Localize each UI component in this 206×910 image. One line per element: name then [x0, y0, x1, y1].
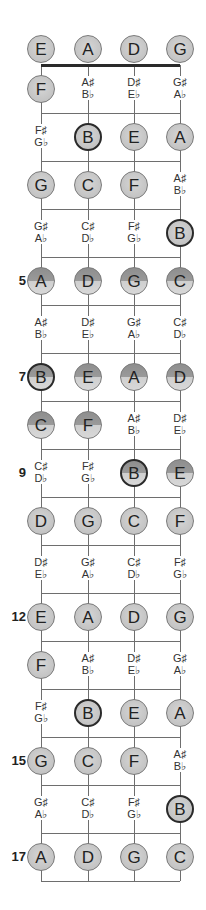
fret-line: [41, 497, 180, 498]
flat-name: D♭: [26, 472, 56, 484]
note-circle-d: D: [74, 267, 102, 295]
accidental-note-label: F♯G♭: [26, 700, 56, 724]
note-circle-b: B: [120, 459, 148, 487]
fret-line: [41, 833, 180, 834]
fret-line: [41, 689, 180, 690]
note-circle-f: F: [74, 411, 102, 439]
flat-name: A♭: [165, 664, 195, 676]
sharp-name: D♯: [165, 412, 195, 424]
sharp-name: D♯: [26, 556, 56, 568]
flat-name: G♭: [26, 712, 56, 724]
note-circle-g: G: [74, 507, 102, 535]
flat-name: E♭: [119, 88, 149, 100]
fret-number-marker: 15: [4, 753, 26, 768]
flat-name: D♭: [73, 232, 103, 244]
flat-name: B♭: [73, 664, 103, 676]
note-circle-g: G: [120, 267, 148, 295]
sharp-name: G♯: [26, 220, 56, 232]
note-circle-f: F: [120, 747, 148, 775]
note-circle-b: B: [74, 699, 102, 727]
note-circle-a: A: [166, 699, 194, 727]
flat-name: B♭: [73, 88, 103, 100]
note-circle-a: A: [166, 123, 194, 151]
flat-name: E♭: [73, 328, 103, 340]
flat-name: B♭: [26, 328, 56, 340]
accidental-note-label: F♯G♭: [26, 124, 56, 148]
accidental-note-label: C♯D♭: [73, 796, 103, 820]
note-circle-c: C: [166, 843, 194, 871]
accidental-note-label: D♯E♭: [73, 316, 103, 340]
flat-name: B♭: [165, 760, 195, 772]
fret-number-marker: 7: [4, 369, 26, 384]
accidental-note-label: A♯B♭: [73, 652, 103, 676]
accidental-note-label: G♯A♭: [119, 316, 149, 340]
sharp-name: F♯: [119, 220, 149, 232]
note-circle-c: C: [27, 411, 55, 439]
fret-number-marker: 17: [4, 849, 26, 864]
fret-number-marker: 12: [4, 609, 26, 624]
sharp-name: C♯: [119, 556, 149, 568]
note-circle-c: C: [166, 267, 194, 295]
flat-name: A♭: [26, 808, 56, 820]
fret-line: [41, 161, 180, 162]
fretboard-diagram: EADGFA♯B♭D♯E♭G♯A♭F♯G♭BEAGCFA♯B♭G♯A♭C♯D♭F…: [0, 0, 206, 910]
nut: [41, 64, 180, 67]
note-circle-f: F: [27, 651, 55, 679]
flat-name: A♭: [165, 88, 195, 100]
sharp-name: G♯: [73, 556, 103, 568]
accidental-note-label: F♯G♭: [165, 556, 195, 580]
note-circle-e: E: [120, 699, 148, 727]
flat-name: E♭: [119, 664, 149, 676]
accidental-note-label: A♯B♭: [26, 316, 56, 340]
sharp-name: F♯: [119, 796, 149, 808]
note-circle-a: A: [27, 267, 55, 295]
accidental-note-label: G♯A♭: [73, 556, 103, 580]
accidental-note-label: C♯D♭: [73, 220, 103, 244]
note-circle-f: F: [27, 75, 55, 103]
sharp-name: A♯: [119, 412, 149, 424]
sharp-name: C♯: [26, 460, 56, 472]
note-circle-e: E: [27, 603, 55, 631]
flat-name: D♭: [165, 328, 195, 340]
sharp-name: F♯: [26, 124, 56, 136]
flat-name: G♭: [73, 472, 103, 484]
sharp-name: D♯: [119, 652, 149, 664]
accidental-note-label: D♯E♭: [26, 556, 56, 580]
sharp-name: C♯: [165, 316, 195, 328]
accidental-note-label: C♯D♭: [165, 316, 195, 340]
sharp-name: A♯: [73, 652, 103, 664]
note-circle-e: E: [74, 363, 102, 391]
sharp-name: F♯: [26, 700, 56, 712]
flat-name: E♭: [26, 568, 56, 580]
sharp-name: A♯: [165, 748, 195, 760]
fret-line: [41, 353, 180, 354]
note-circle-g: G: [166, 35, 194, 63]
fret-line: [41, 401, 180, 402]
fret-line: [41, 737, 180, 738]
accidental-note-label: C♯D♭: [119, 556, 149, 580]
accidental-note-label: G♯A♭: [165, 652, 195, 676]
note-circle-b: B: [27, 363, 55, 391]
flat-name: G♭: [26, 136, 56, 148]
flat-name: D♭: [73, 808, 103, 820]
sharp-name: C♯: [73, 220, 103, 232]
note-circle-d: D: [120, 35, 148, 63]
flat-name: E♭: [165, 424, 195, 436]
note-circle-a: A: [27, 843, 55, 871]
sharp-name: G♯: [165, 652, 195, 664]
flat-name: B♭: [165, 184, 195, 196]
accidental-note-label: A♯B♭: [119, 412, 149, 436]
note-circle-g: G: [120, 843, 148, 871]
note-circle-g: G: [166, 603, 194, 631]
note-circle-e: E: [27, 35, 55, 63]
sharp-name: D♯: [119, 76, 149, 88]
note-circle-g: G: [27, 171, 55, 199]
sharp-name: F♯: [165, 556, 195, 568]
flat-name: G♭: [119, 232, 149, 244]
accidental-note-label: A♯B♭: [165, 748, 195, 772]
fret-line: [41, 209, 180, 210]
fret-number-marker: 9: [4, 465, 26, 480]
flat-name: D♭: [119, 568, 149, 580]
flat-name: A♭: [73, 568, 103, 580]
accidental-note-label: F♯G♭: [119, 796, 149, 820]
